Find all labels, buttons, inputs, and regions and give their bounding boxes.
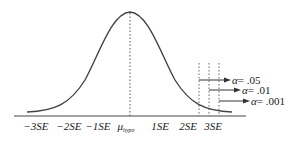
arrow-01 — [209, 88, 241, 93]
tick-label-neg1se: −1SE — [85, 120, 110, 132]
alpha-label-001: α= .001 — [251, 95, 285, 107]
tick-label-1se: 1SE — [151, 120, 169, 132]
normal-curve-diagram: α= .05 α= .01 α= .001 −3SE −2SE −1SE μhy… — [0, 0, 297, 142]
tick-label-2se: 2SE — [179, 120, 197, 132]
tick-label-neg2se: −2SE — [56, 120, 81, 132]
tick-label-mean: μhypo — [116, 120, 134, 133]
tick-label-neg3se: −3SE — [23, 120, 48, 132]
arrow-001 — [219, 99, 250, 104]
arrow-05 — [199, 78, 231, 83]
tick-label-3se: 3SE — [203, 120, 222, 132]
